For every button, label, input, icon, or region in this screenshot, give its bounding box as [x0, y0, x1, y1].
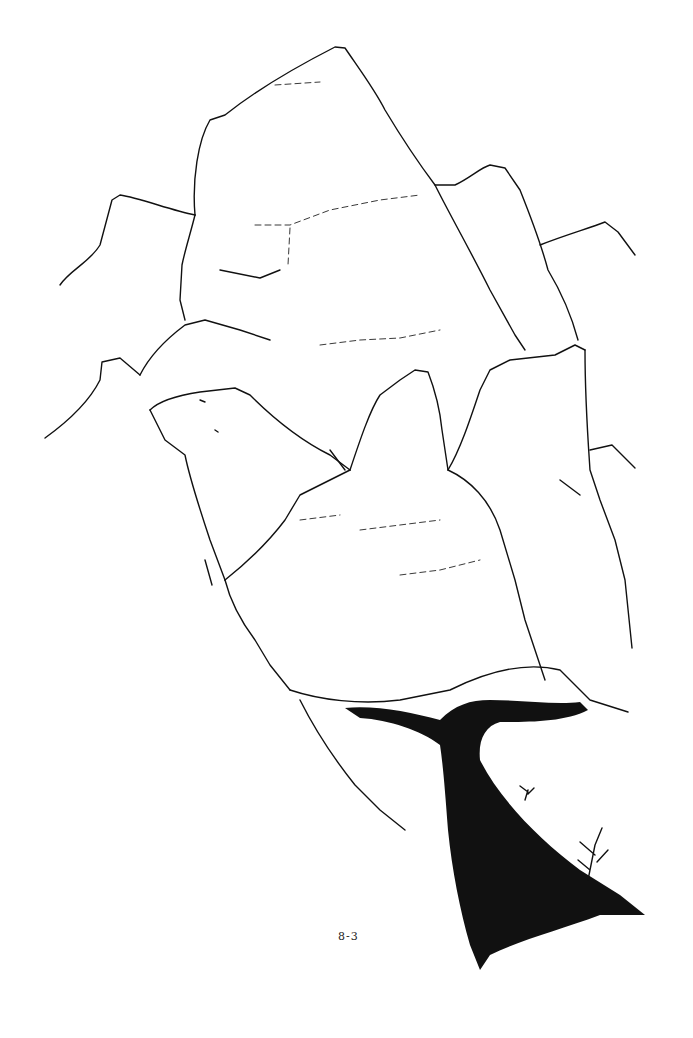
illustration-page: 8-3 [0, 0, 693, 1038]
page-number-label: 8-3 [338, 930, 359, 943]
rock-formation-drawing [0, 0, 693, 1038]
